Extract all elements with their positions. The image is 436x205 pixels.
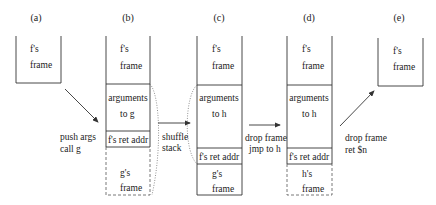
- transition-2-line-2: stack: [162, 143, 182, 153]
- shuffle-curve-right: [187, 85, 197, 164]
- stack-d: f's frame arguments to h f's ret addr h'…: [287, 36, 332, 195]
- arrow-d-to-e: [340, 91, 374, 126]
- stack-e: f's frame: [378, 38, 423, 86]
- b-ret-addr: f's ret addr: [108, 135, 149, 145]
- d-callee-2: frame: [302, 184, 324, 194]
- c-args-2: to h: [212, 109, 227, 119]
- c-args-1: arguments: [199, 93, 239, 103]
- transition-3-line-2: jmp to h: [248, 144, 281, 154]
- d-f-frame-1: f's: [302, 44, 311, 54]
- c-ret-addr: f's ret addr: [199, 152, 240, 162]
- tail-call-stack-diagram: (a) (b) (c) (d) (e) f's frame f's frame …: [0, 0, 436, 205]
- d-args-1: arguments: [289, 93, 329, 103]
- shuffle-curve-left: [150, 84, 159, 195]
- panel-label-b: (b): [122, 12, 134, 24]
- transition-4-line-2: ret $n: [345, 145, 367, 155]
- panel-label-a: (a): [30, 12, 41, 24]
- stack-b: f's frame arguments to g f's ret addr g'…: [106, 36, 150, 195]
- b-args-1: arguments: [108, 93, 148, 103]
- arrow-a-to-b: [65, 89, 98, 122]
- c-f-frame-2: frame: [212, 61, 234, 71]
- b-callee-1: g's: [120, 168, 130, 178]
- a-f-frame-2: frame: [30, 60, 52, 70]
- d-f-frame-2: frame: [302, 61, 324, 71]
- stack-c: f's frame arguments to h f's ret addr g'…: [197, 36, 242, 195]
- b-callee-2: frame: [120, 183, 142, 193]
- c-f-frame-1: f's: [212, 44, 221, 54]
- d-args-2: to h: [302, 109, 317, 119]
- e-f-frame-2: frame: [393, 62, 415, 72]
- c-callee-1: g's: [212, 169, 222, 179]
- transition-1-line-2: call g: [60, 144, 81, 154]
- d-ret-addr: f's ret addr: [289, 152, 330, 162]
- e-f-frame-1: f's: [393, 46, 402, 56]
- c-callee-2: frame: [212, 184, 234, 194]
- transition-4-line-1: drop frame: [345, 133, 387, 143]
- panel-label-d: (d): [303, 12, 315, 24]
- b-args-2: to g: [120, 109, 135, 119]
- b-f-frame-2: frame: [120, 61, 142, 71]
- transition-1-line-1: push args: [60, 132, 96, 142]
- transition-3-line-1: drop frame: [245, 133, 287, 143]
- a-f-frame-1: f's: [30, 44, 39, 54]
- transition-2-line-1: shuffle: [162, 132, 188, 142]
- b-f-frame-1: f's: [120, 44, 129, 54]
- stack-a: f's frame: [16, 36, 61, 83]
- d-callee-1: h's: [302, 169, 312, 179]
- panel-label-e: (e): [393, 12, 404, 24]
- panel-label-c: (c): [213, 12, 224, 24]
